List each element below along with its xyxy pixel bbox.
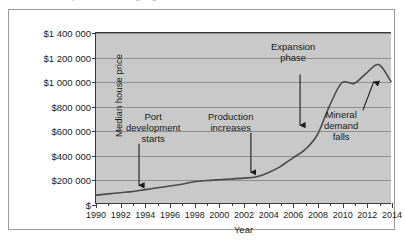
x-tick-major bbox=[244, 203, 245, 208]
annotation-arrow-mineral-demand-falls bbox=[363, 82, 374, 111]
x-tick-major bbox=[145, 203, 146, 208]
annotation-production-increases: Productionincreases bbox=[208, 111, 253, 133]
y-tick-label: $1 400 000 bbox=[43, 28, 91, 39]
x-tick-label: 2000 bbox=[209, 210, 229, 220]
y-tick-label: $400 000 bbox=[51, 150, 91, 161]
annotation-line: falls bbox=[324, 131, 358, 142]
x-tick-major bbox=[195, 203, 196, 208]
x-tick-major bbox=[367, 203, 368, 208]
x-tick-minor bbox=[133, 203, 134, 206]
annotation-line: increases bbox=[208, 122, 253, 133]
x-tick-major bbox=[392, 203, 393, 208]
cut-off-caption: Median house price in a mining region, 1… bbox=[0, 0, 405, 7]
x-tick-label: 1996 bbox=[160, 210, 180, 220]
x-tick-minor bbox=[256, 203, 257, 206]
x-tick-major bbox=[219, 203, 220, 208]
x-tick-minor bbox=[330, 203, 331, 206]
annotation-line: development bbox=[126, 122, 180, 133]
x-tick-minor bbox=[182, 203, 183, 206]
x-tick-label: 2004 bbox=[259, 210, 279, 220]
y-tick-label: $ bbox=[86, 200, 91, 211]
x-tick-label: 2010 bbox=[333, 210, 353, 220]
x-tick-minor bbox=[355, 203, 356, 206]
cut-off-caption-text: Median house price in a mining region, 1… bbox=[10, 0, 230, 1]
x-tick-major bbox=[121, 203, 122, 208]
x-tick-major bbox=[170, 203, 171, 208]
x-tick-label: 2008 bbox=[308, 210, 328, 220]
x-tick-minor bbox=[207, 203, 208, 206]
annotation-line: Mineral bbox=[324, 109, 358, 120]
annotation-line: Expansion bbox=[271, 41, 315, 52]
x-tick-label: 2014 bbox=[382, 210, 402, 220]
figure-frame: $$200 000$400 000$600 000$800 000$1 000 … bbox=[8, 9, 395, 230]
x-tick-minor bbox=[232, 203, 233, 206]
x-tick-major bbox=[318, 203, 319, 208]
y-tick-label: $1 200 000 bbox=[43, 52, 91, 63]
annotation-line: Production bbox=[208, 111, 253, 122]
x-tick-minor bbox=[281, 203, 282, 206]
x-tick-minor bbox=[158, 203, 159, 206]
x-tick-major bbox=[293, 203, 294, 208]
x-axis-title: Year bbox=[96, 224, 391, 235]
annotation-line: demand bbox=[324, 120, 358, 131]
x-tick-major bbox=[343, 203, 344, 208]
y-tick-label: $200 000 bbox=[51, 175, 91, 186]
x-tick-minor bbox=[306, 203, 307, 206]
y-tick-label: $1 000 000 bbox=[43, 77, 91, 88]
x-tick-major bbox=[269, 203, 270, 208]
annotation-line: starts bbox=[126, 133, 180, 144]
y-axis-title: Median house price bbox=[113, 26, 124, 166]
x-tick-label: 1990 bbox=[86, 210, 106, 220]
y-tick-label: $600 000 bbox=[51, 126, 91, 137]
annotation-expansion-phase: Expansionphase bbox=[271, 41, 315, 63]
annotation-line: Port bbox=[126, 111, 180, 122]
x-tick-label: 2002 bbox=[234, 210, 254, 220]
x-tick-label: 2012 bbox=[357, 210, 377, 220]
x-tick-major bbox=[96, 203, 97, 208]
x-tick-minor bbox=[108, 203, 109, 206]
annotation-mineral-demand-falls: Mineraldemandfalls bbox=[324, 109, 358, 142]
x-tick-label: 1992 bbox=[111, 210, 131, 220]
plot-area: $$200 000$400 000$600 000$800 000$1 000 … bbox=[95, 32, 391, 204]
x-tick-minor bbox=[380, 203, 381, 206]
y-tick-label: $800 000 bbox=[51, 101, 91, 112]
x-tick-label: 2006 bbox=[283, 210, 303, 220]
annotation-port-development: Portdevelopmentstarts bbox=[126, 111, 180, 144]
x-tick-label: 1998 bbox=[185, 210, 205, 220]
annotation-line: phase bbox=[271, 52, 315, 63]
x-tick-label: 1994 bbox=[135, 210, 155, 220]
